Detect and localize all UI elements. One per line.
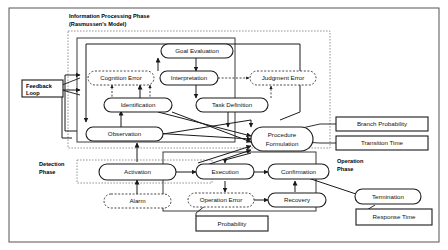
node-judgment-error-label: Judgment Error: [262, 74, 305, 81]
node-interpretation-label: Interpretation: [171, 74, 208, 81]
box-branch-probability-label: Branch Probability: [357, 120, 408, 127]
phase-label-information-processing-line1: Information Processing Phase: [69, 13, 150, 19]
node-execution-label: Execution: [211, 168, 239, 175]
node-recovery-label: Recovery: [284, 196, 311, 203]
node-task-definition-label: Task Definition: [212, 101, 253, 108]
phase-label-operation-line2: Phase: [337, 166, 353, 172]
node-termination-label: Termination: [372, 193, 405, 200]
phase-label-operation-line1: Operation: [337, 158, 364, 164]
box-response-time-label: Response Time: [373, 213, 417, 220]
node-operation-error-label: Operation Error: [200, 196, 243, 203]
phase-label-detection-line2: Phase: [39, 169, 55, 175]
phase-label-information-processing-line2: (Rasmussen's Model): [69, 21, 126, 27]
node-observation-label: Observation: [108, 130, 142, 137]
node-procedure-formulation-label-line2: Formulation: [266, 140, 299, 147]
node-alarm-label: Alarm: [129, 197, 145, 204]
diagram-root: Goal Evaluation Cognition Error Interpre…: [0, 0, 448, 250]
node-identification-label: Identification: [121, 101, 156, 108]
node-goal-evaluation-label: Goal Evaluation: [175, 47, 219, 54]
box-feedback-loop-label-line2: Loop: [26, 90, 40, 96]
node-confirmation-label: Confirmation: [281, 168, 317, 175]
diagram-canvas: Goal Evaluation Cognition Error Interpre…: [0, 0, 448, 250]
box-feedback-loop-label-line1: Feedback: [26, 83, 53, 89]
phase-label-detection-line1: Detection: [39, 161, 65, 167]
node-procedure-formulation-label-line1: Procedure: [268, 131, 297, 138]
box-probability-label: Probability: [218, 220, 248, 227]
node-activation-label: Activation: [124, 168, 151, 175]
box-transition-time-label: Transition Time: [361, 139, 404, 146]
node-cognition-error-label: Cognition Error: [100, 74, 142, 81]
